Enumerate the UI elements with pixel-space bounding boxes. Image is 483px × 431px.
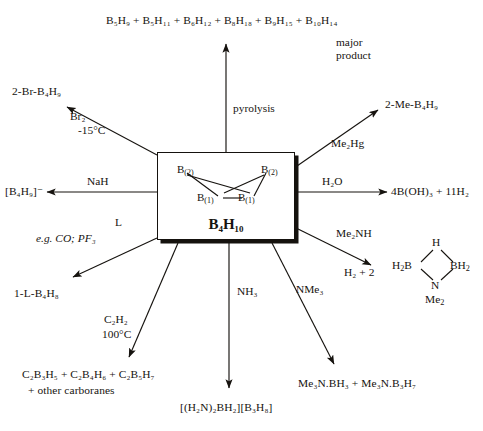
reagent-ligand-substitution-line-2: e.g. CO; PF₃ [36,232,96,245]
reagent-hydrolysis: H₂O [322,175,342,188]
reagent-bromination-line-1: Br₂ [70,110,85,123]
reagent-ligand-substitution-line-1: L [115,216,122,229]
reagent-carborane-line-2: 100°C [102,328,131,341]
reagent-ammonia: NH₃ [237,285,257,298]
reaction-scheme-diagram: B(2) B(2) B(1) B(1) B₄H₁₀ B₅H₉ + B₅H₁₁ +… [0,0,483,431]
reagent-trimethylamine: NMe₃ [296,283,323,296]
reagent-dimethylamine: Me₂NH [336,227,372,240]
aminoborane-dimer-ring: H H2B BH2 N Me2 [408,236,464,294]
product-deprotonation: [B₄H₉]⁻ [5,185,43,198]
arrow-carborane-formation [129,243,178,357]
product-methylation: 2-Me-B₄H₉ [385,98,438,111]
reagent-pyrolysis: pyrolysis [233,102,275,115]
product-trimethylamine: Me₃N.BH₃ + Me₃N.B₃H₇ [298,377,416,390]
product-bromination: 2-Br-B₄H₉ [12,85,61,98]
annotation-line-2: product [336,49,371,62]
annotation-line-1: major [336,36,371,49]
reagent-methylation: Me₂Hg [331,137,364,150]
product-hydrolysis: 4B(OH)₃ + 11H₂ [391,185,469,198]
product-carborane-line-2: + other carboranes [28,384,115,397]
atom-b2-left: B(2) [177,163,194,175]
atom-b1-left: B(1) [197,191,214,203]
ring-atom-top-h: H [432,236,440,248]
atom-b1-right: B(1) [238,191,255,203]
product-pyrolysis: B₅H₉ + B₅H₁₁ + B₆H₁₂ + B₈H₁₈ + B₉H₁₅ + B… [106,14,338,27]
arrow-trimethylamine [272,243,334,364]
reagent-carborane-line-1: C₂H₂ [104,313,128,326]
product-ammonia: [(H₂N)₂BH₂][B₃H₈] [180,401,272,414]
product-dimethylamine-prefix: H₂ + 2 [344,266,375,279]
annotation-major-product: major product [336,36,371,62]
reagent-bromination-line-2: -15°C [78,124,105,137]
ring-atom-right-bh2: BH2 [450,259,470,271]
ring-atom-left-bh2: H2B [392,259,412,271]
atom-b2-right: B(2) [261,163,278,175]
product-ligand-substitution: 1-L-B₄H₈ [14,287,59,300]
ring-atom-bottom-n: N [431,279,439,291]
central-species-box: B(2) B(2) B(1) B(1) B₄H₁₀ [157,152,295,240]
central-formula: B₄H₁₀ [158,216,294,233]
product-carborane-line-1: C₂B₃H₅ + C₂B₄H₆ + C₂B₅H₇ [22,368,155,381]
ring-substituent-me2: Me2 [425,293,444,305]
reagent-deprotonation: NaH [87,175,109,188]
